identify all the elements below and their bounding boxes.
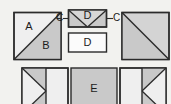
label-A: A bbox=[25, 20, 33, 32]
triangle-left-unit bbox=[120, 68, 166, 104]
label-D-plain: D bbox=[84, 36, 92, 48]
label-D-geese: D bbox=[84, 9, 92, 21]
connector-right: C bbox=[107, 12, 121, 23]
flying-geese-unit-D: D bbox=[69, 9, 107, 27]
label-C-left: C bbox=[56, 12, 63, 23]
plain-rectangle-D: D bbox=[69, 33, 107, 52]
half-square-triangle-plain bbox=[122, 13, 169, 60]
label-B: B bbox=[42, 39, 49, 51]
half-square-triangle-AB: A B bbox=[14, 13, 61, 60]
label-E: E bbox=[90, 82, 97, 94]
diagram-canvas: A B C D C D bbox=[0, 0, 171, 104]
label-C-right: C bbox=[113, 12, 120, 23]
square-E: E bbox=[71, 68, 117, 104]
triangle-right-unit bbox=[22, 68, 68, 104]
